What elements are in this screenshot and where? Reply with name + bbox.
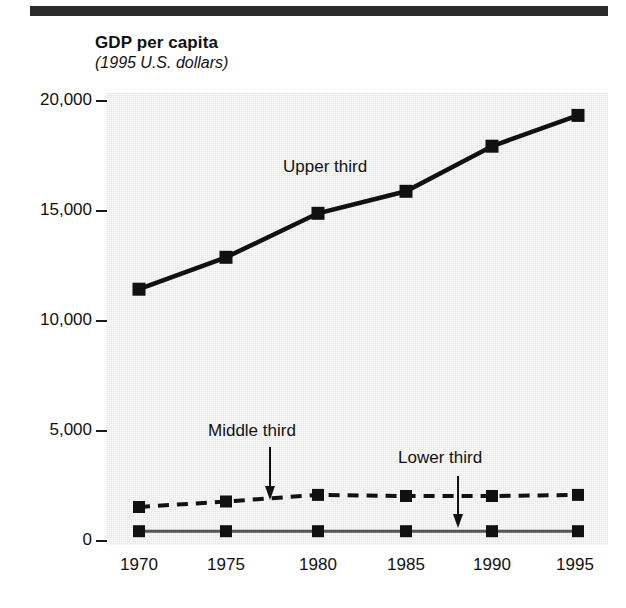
data-point-marker — [400, 525, 412, 537]
data-point-marker — [312, 489, 324, 501]
data-point-marker — [572, 489, 584, 501]
data-point-marker — [572, 109, 585, 122]
series-layer — [0, 0, 626, 608]
annotation-middle-third: Middle third — [208, 421, 296, 441]
annotation-lower-third: Lower third — [398, 448, 482, 468]
data-point-marker — [220, 496, 232, 508]
series-upper-third — [133, 109, 585, 296]
data-point-marker — [312, 525, 324, 537]
data-point-marker — [133, 501, 145, 513]
series-middle-third — [133, 489, 584, 513]
data-point-marker — [133, 283, 146, 296]
data-point-marker — [572, 525, 584, 537]
data-point-marker — [400, 490, 412, 502]
data-point-marker — [312, 207, 325, 220]
annotation-upper-third: Upper third — [283, 157, 367, 177]
data-point-marker — [220, 251, 233, 264]
data-point-marker — [486, 490, 498, 502]
data-point-marker — [400, 185, 413, 198]
data-point-marker — [486, 140, 499, 153]
series-lower-third — [133, 525, 584, 537]
chart-figure: GDP per capita (1995 U.S. dollars) 20,00… — [0, 0, 626, 608]
data-point-marker — [486, 525, 498, 537]
data-point-marker — [133, 525, 145, 537]
data-point-marker — [220, 525, 232, 537]
